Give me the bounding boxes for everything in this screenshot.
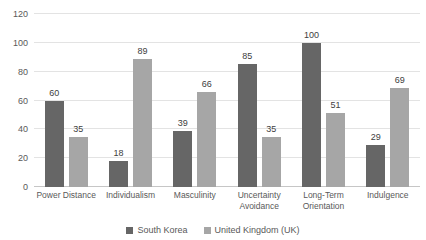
bar: 51 — [326, 113, 345, 187]
bar-value-label: 69 — [395, 75, 405, 85]
bar: 35 — [262, 137, 281, 187]
legend-swatch-icon — [204, 227, 211, 234]
bar: 85 — [238, 64, 257, 187]
bar-group: 1889 — [98, 14, 162, 187]
bar-chart: 020406080100120 603518893966853510051296… — [0, 0, 426, 240]
y-tick-label: 20 — [0, 153, 28, 163]
bar: 39 — [173, 131, 192, 187]
x-tick-label: Long-Term Orientation — [291, 190, 355, 211]
bar: 18 — [109, 161, 128, 187]
bars-row: 6035188939668535100512969 — [34, 14, 420, 187]
bar-value-label: 35 — [73, 124, 83, 134]
legend-item: United Kingdom (UK) — [204, 225, 300, 235]
x-tick-label: Individualism — [98, 190, 162, 211]
bar: 35 — [69, 137, 88, 187]
bar-group: 3966 — [163, 14, 227, 187]
bar-value-label: 18 — [113, 148, 123, 158]
bar: 69 — [390, 88, 409, 187]
y-tick-label: 0 — [0, 182, 28, 192]
bar: 60 — [45, 101, 64, 188]
bar: 89 — [133, 59, 152, 187]
bar: 29 — [366, 145, 385, 187]
bar-value-label: 66 — [202, 79, 212, 89]
bar-value-label: 51 — [330, 100, 340, 110]
bar-value-label: 29 — [371, 132, 381, 142]
legend-label: South Korea — [137, 225, 187, 235]
y-tick-label: 100 — [0, 38, 28, 48]
legend-item: South Korea — [126, 225, 187, 235]
x-tick-label: Power Distance — [34, 190, 98, 211]
bar-value-label: 39 — [178, 118, 188, 128]
bar-group: 6035 — [34, 14, 98, 187]
x-axis: Power DistanceIndividualismMasculinityUn… — [34, 190, 420, 211]
y-axis: 020406080100120 — [0, 14, 28, 187]
bar-group: 10051 — [291, 14, 355, 187]
x-tick-label: Uncertainty Avoidance — [227, 190, 291, 211]
bar-value-label: 100 — [304, 30, 319, 40]
x-tick-label: Masculinity — [163, 190, 227, 211]
legend-swatch-icon — [126, 227, 133, 234]
y-tick-label: 40 — [0, 124, 28, 134]
bar-value-label: 60 — [49, 88, 59, 98]
bar-group: 8535 — [227, 14, 291, 187]
y-tick-label: 60 — [0, 96, 28, 106]
bar-group: 2969 — [356, 14, 420, 187]
bar-value-label: 85 — [242, 51, 252, 61]
bar: 66 — [197, 92, 216, 187]
x-tick-label: Indulgence — [356, 190, 420, 211]
legend-label: United Kingdom (UK) — [215, 225, 300, 235]
bar-value-label: 35 — [266, 124, 276, 134]
y-tick-label: 120 — [0, 9, 28, 19]
plot-area: 6035188939668535100512969 — [34, 14, 420, 187]
y-tick-label: 80 — [0, 67, 28, 77]
legend: South KoreaUnited Kingdom (UK) — [0, 225, 426, 235]
bar: 100 — [302, 43, 321, 187]
bar-value-label: 89 — [137, 46, 147, 56]
